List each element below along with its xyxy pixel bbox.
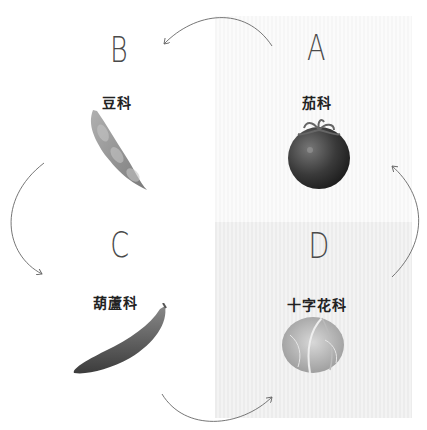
family-label-a: 茄科 (302, 92, 332, 112)
rotation-arrows (0, 0, 427, 430)
arrow-c-to-d (162, 394, 272, 421)
quadrant-letter-a: A (307, 30, 325, 66)
arrow-a-to-b (164, 18, 272, 46)
quadrant-letter-b: B (110, 32, 128, 68)
cucumber-icon (70, 303, 170, 378)
quadrant-letter-c: C (110, 227, 129, 263)
cabbage-icon (280, 315, 346, 375)
tomato-icon (284, 114, 354, 190)
quadrant-letter-d: D (308, 228, 329, 264)
family-label-d: 十字花科 (287, 294, 347, 314)
bean-pod-icon (85, 105, 155, 195)
arrow-b-to-c (11, 163, 44, 274)
arrow-d-to-a (392, 166, 419, 277)
